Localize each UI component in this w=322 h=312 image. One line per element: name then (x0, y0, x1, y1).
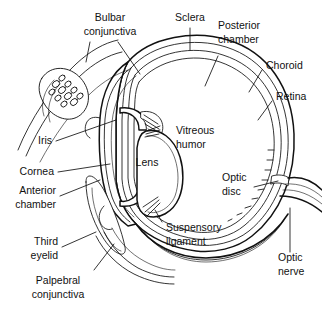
label-vitreous-humor-line2: humor (176, 138, 206, 150)
label-third-eyelid-line1: Third (34, 235, 58, 247)
label-suspensory-ligament-line2: ligament (166, 235, 206, 247)
label-suspensory-ligament-line1: Suspensory (166, 221, 222, 233)
leader-bulbar-conjunctiva-a (86, 42, 90, 62)
label-bulbar-conjunctiva-line1: Bulbar (95, 11, 126, 23)
label-vitreous-humor-line1: Vitreous (176, 124, 214, 136)
label-cornea: Cornea (20, 165, 55, 177)
label-posterior-chamber-line1: Posterior (218, 19, 261, 31)
label-third-eyelid-line2: eyelid (31, 249, 59, 261)
label-iris: Iris (38, 134, 52, 146)
optic-nerve-lower-border (280, 196, 322, 212)
label-palpebral-conjunctiva-line2: conjunctiva (32, 288, 85, 300)
label-optic-nerve-line2: nerve (278, 265, 304, 277)
eye-anatomy-diagram: Bulbar conjunctiva Sclera Posterior cham… (0, 0, 322, 312)
label-posterior-chamber-line2: chamber (218, 33, 259, 45)
label-lens: Lens (136, 156, 159, 168)
label-retina: Retina (276, 90, 307, 102)
optic-nerve-upper-border (288, 178, 322, 191)
label-sclera: Sclera (175, 11, 205, 23)
label-optic-disc-line2: disc (222, 185, 241, 197)
leader-third-eyelid (62, 232, 96, 247)
label-bulbar-conjunctiva-line2: conjunctiva (84, 25, 137, 37)
label-anterior-chamber-line1: Anterior (19, 184, 56, 196)
label-choroid: Choroid (266, 59, 303, 71)
label-optic-nerve-line1: Optic (278, 251, 303, 263)
label-palpebral-conjunctiva-line1: Palpebral (36, 274, 80, 286)
upper-lid-margin (85, 117, 100, 138)
label-optic-disc-line1: Optic (222, 171, 247, 183)
label-anterior-chamber-line2: chamber (15, 198, 56, 210)
